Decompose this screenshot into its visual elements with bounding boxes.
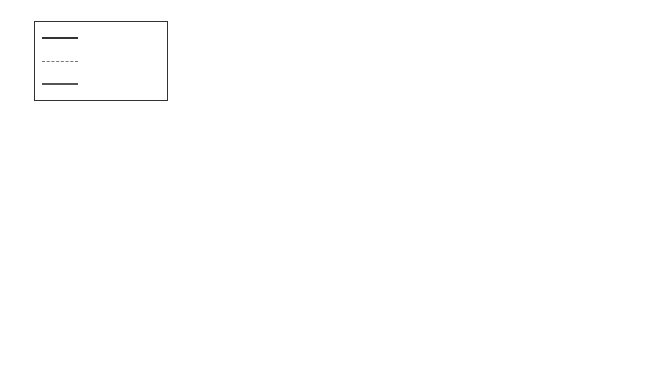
legend-item-msqe [42, 28, 84, 48]
dashed-line-swatch-icon [42, 61, 78, 62]
solid-line-swatch-icon [42, 83, 78, 85]
solid-line-swatch-icon [42, 37, 78, 39]
legend [34, 21, 168, 101]
legend-item-sinreq [42, 51, 84, 71]
legend-item-proposed [42, 74, 84, 94]
